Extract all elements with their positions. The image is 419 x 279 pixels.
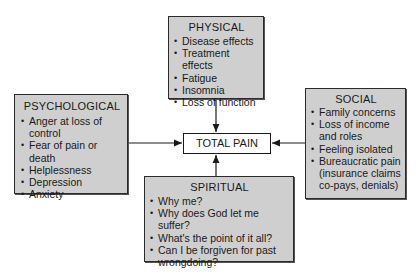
- spiritual-box: SPIRITUAL Why me? Why does God let me su…: [144, 176, 294, 262]
- social-box: SOCIAL Family concerns Loss of income an…: [305, 88, 406, 199]
- list-item: Depression: [21, 176, 123, 188]
- spiritual-title: SPIRITUAL: [150, 181, 289, 193]
- social-title: SOCIAL: [311, 93, 401, 105]
- list-item: Fear of pain or death: [21, 139, 123, 163]
- list-item: Anxiety: [21, 188, 123, 200]
- list-item: Why does God let me suffer?: [150, 207, 289, 231]
- list-item: Feeling isolated: [311, 143, 401, 155]
- list-item: Why me?: [150, 195, 289, 207]
- list-item: Disease effects: [174, 35, 259, 47]
- total-pain-box: TOTAL PAIN: [183, 133, 271, 154]
- list-item: Insomnia: [174, 84, 259, 96]
- list-item: Anger at loss of control: [21, 115, 123, 139]
- physical-box: PHYSICAL Disease effects Treatment effec…: [168, 16, 264, 99]
- list-item: What's the point of it all?: [150, 232, 289, 244]
- psychological-box: PSYCHOLOGICAL Anger at loss of control F…: [14, 94, 128, 194]
- list-item: Can I be forgiven for past wrongdoing?: [150, 244, 289, 268]
- list-item: Helplessness: [21, 164, 123, 176]
- list-item: Fatigue: [174, 72, 259, 84]
- list-item: Bureaucratic pain (insurance claims co-p…: [311, 155, 401, 192]
- psychological-title: PSYCHOLOGICAL: [21, 100, 123, 112]
- list-item: Family concerns: [311, 106, 401, 118]
- list-item: Treatment effects: [174, 47, 259, 71]
- physical-title: PHYSICAL: [174, 21, 259, 33]
- list-item: Loss of function: [174, 96, 259, 108]
- list-item: Loss of income and roles: [311, 118, 401, 142]
